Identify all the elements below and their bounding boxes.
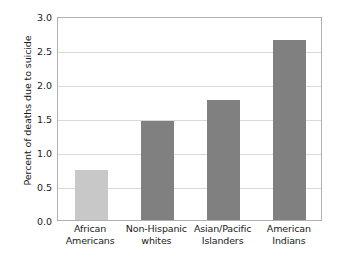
x-axis-label-line: Asian/Pacific [190, 223, 256, 235]
bar [273, 40, 306, 220]
bar [207, 100, 240, 220]
bars-group [58, 18, 321, 220]
y-tick-label: 0.0 [20, 216, 52, 227]
x-axis-label-line: Non-Hispanic [123, 223, 189, 235]
x-axis-label-line: whites [123, 235, 189, 247]
x-axis-category-labels: AfricanAmericansNon-HispanicwhitesAsian/… [57, 223, 322, 257]
y-tick-label: 0.5 [20, 182, 52, 193]
x-axis-label: AmericanIndians [256, 223, 322, 257]
bar-chart-figure: Percent of deaths due to suicide 0.00.51… [0, 0, 337, 259]
y-tick-label: 3.0 [20, 12, 52, 23]
x-axis-label-line: American [256, 223, 322, 235]
plot-area [57, 17, 322, 221]
x-axis-label: Asian/PacificIslanders [190, 223, 256, 257]
x-axis-label-line: African [57, 223, 123, 235]
x-axis-label: Non-Hispanicwhites [123, 223, 189, 257]
x-axis-label-line: Islanders [190, 235, 256, 247]
bar [141, 121, 174, 220]
y-tick-label: 1.0 [20, 148, 52, 159]
y-tick-label: 2.5 [20, 46, 52, 57]
x-axis-label-line: Americans [57, 235, 123, 247]
y-axis-tick-labels: 0.00.51.01.52.02.53.0 [20, 0, 52, 259]
y-tick-label: 1.5 [20, 114, 52, 125]
y-tick-label: 2.0 [20, 80, 52, 91]
bar [75, 170, 108, 220]
x-axis-label-line: Indians [256, 235, 322, 247]
x-axis-label: AfricanAmericans [57, 223, 123, 257]
